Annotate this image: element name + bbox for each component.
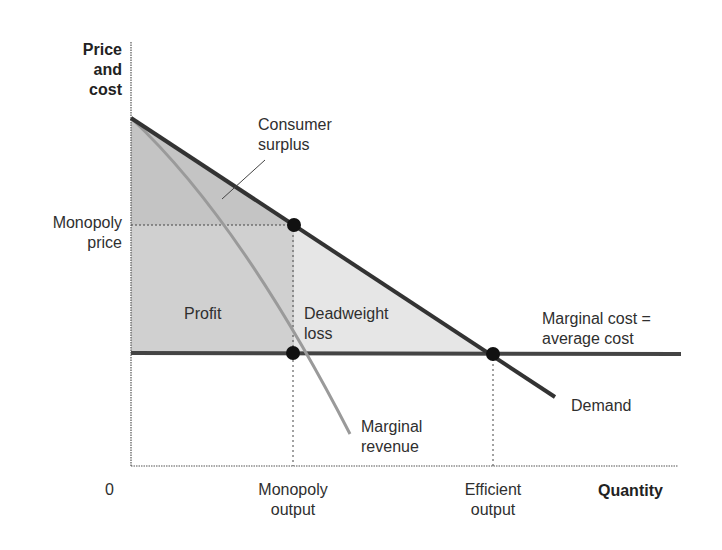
profit-region (131, 225, 294, 353)
marginal-cost-label-line: average cost (542, 329, 651, 349)
marginal-revenue-label: Marginal revenue (361, 417, 422, 457)
consumer-surplus-label-line: Consumer (258, 115, 332, 135)
monopoly-output-label-line: Monopoly (233, 480, 353, 500)
deadweight-loss-label-line: Deadweight (304, 304, 389, 324)
monopoly-point (287, 218, 301, 232)
marginal-revenue-label-line: Marginal (361, 417, 422, 437)
y-axis-label-line: Price (60, 40, 122, 60)
mr-equals-mc-point (286, 346, 300, 360)
marginal-cost-label: Marginal cost = average cost (542, 309, 651, 349)
origin-label: 0 (105, 480, 114, 500)
y-axis-label: Price and cost (60, 40, 122, 100)
deadweight-loss-label-line: loss (304, 324, 389, 344)
marginal-cost-label-line: Marginal cost = (542, 309, 651, 329)
y-axis-label-line: and (60, 60, 122, 80)
profit-label: Profit (184, 304, 221, 324)
deadweight-loss-label: Deadweight loss (304, 304, 389, 344)
y-axis-label-line: cost (60, 80, 122, 100)
marginal-cost-line (131, 353, 681, 354)
efficient-output-label-line: output (433, 500, 553, 520)
consumer-surplus-label: Consumer surplus (258, 115, 332, 155)
marginal-revenue-label-line: revenue (361, 437, 422, 457)
efficient-output-label-line: Efficient (433, 480, 553, 500)
monopoly-price-label-line: price (20, 233, 122, 253)
x-axis-label: Quantity (598, 481, 663, 501)
monopoly-price-label-line: Monopoly (20, 213, 122, 233)
efficient-output-label: Efficient output (433, 480, 553, 520)
consumer-surplus-label-line: surplus (258, 135, 332, 155)
monopoly-price-label: Monopoly price (20, 213, 122, 253)
monopoly-output-label-line: output (233, 500, 353, 520)
efficient-point (486, 347, 500, 361)
monopoly-output-label: Monopoly output (233, 480, 353, 520)
demand-label: Demand (571, 396, 631, 416)
